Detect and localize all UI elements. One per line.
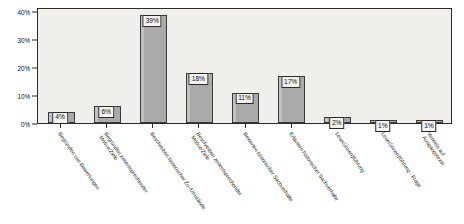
bar-value-label: 4% (52, 112, 68, 124)
y-tick-label-30: 30% (18, 37, 31, 44)
y-tick-label-20: 20% (18, 65, 31, 72)
bar-highlight (417, 121, 420, 122)
bar-value-label: 1% (375, 120, 391, 132)
bar (140, 15, 167, 123)
bar-highlight (371, 121, 374, 122)
bar-highlight (325, 118, 328, 122)
x-tick-mark (152, 124, 153, 128)
x-tick-mark (106, 124, 107, 128)
x-tick-mark (291, 124, 292, 128)
x-category-label: Begründen von Bewertungen (57, 131, 102, 191)
x-category-label: Beschreiben zeitentsprechenderMotive/Zie… (190, 131, 244, 200)
x-tick-mark (60, 124, 61, 128)
x-tick-mark (198, 124, 199, 128)
x-tick-mark (245, 124, 246, 128)
bar-value-label: 6% (98, 106, 114, 118)
x-category-label: Verweis aufAusgangstexte (420, 131, 451, 167)
bar-highlight (49, 113, 52, 122)
x-category-label: Begründen zeitentsprechenderMotive/Ziele (98, 131, 150, 198)
y-tick-label-0: 0% (21, 121, 30, 128)
x-category-label: Leser(innen)führung (333, 131, 366, 174)
bar-value-label: 18% (189, 73, 208, 85)
bar-value-label: 2% (329, 117, 345, 129)
x-category-label: Leser(innen)führung - Frage (380, 131, 423, 189)
bar-value-label: 17% (281, 76, 300, 88)
bar-chart: 0% 10% 20% 30% 40% 4%6%39%18%11%17%2%1%1… (0, 0, 464, 224)
bar-highlight (95, 107, 98, 122)
bar-value-label: 39% (143, 15, 162, 27)
y-axis: 0% 10% 20% 30% 40% (0, 0, 37, 132)
bar-value-label: 11% (235, 93, 254, 105)
x-category-label: Erläutern historischer Sachverhalte (287, 131, 339, 202)
y-tick-label-40: 40% (18, 9, 31, 16)
bar-value-label: 1% (421, 120, 437, 132)
x-category-label: Bewerten historischer Sachverhalte (241, 131, 294, 203)
y-tick-label-10: 10% (18, 93, 31, 100)
bar-highlight (141, 16, 144, 122)
